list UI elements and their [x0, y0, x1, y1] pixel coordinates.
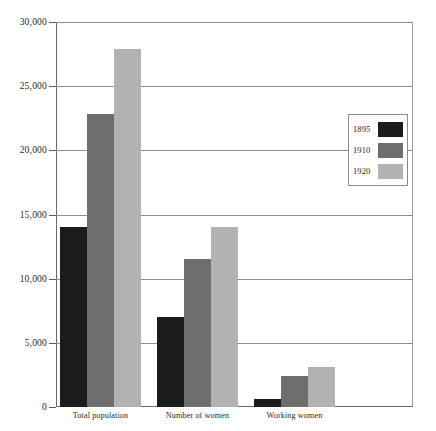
bar-chart: 05,00010,00015,00020,00025,00030,000 Tot… [0, 0, 436, 431]
y-axis-tick-mark [49, 343, 56, 344]
bar [254, 399, 281, 407]
y-axis-tick-label: 10,000 [20, 274, 47, 284]
legend: 189519101920 [348, 114, 408, 186]
x-axis-category-label: Working women [267, 411, 323, 420]
bar [211, 227, 238, 407]
y-axis-tick-label: 15,000 [20, 210, 47, 220]
legend-item-label: 1895 [353, 124, 378, 134]
legend-item-label: 1920 [353, 166, 378, 176]
bar [114, 49, 141, 407]
bar [157, 317, 184, 407]
x-axis-category-label: Number of women [166, 411, 229, 420]
legend-item: 1910 [353, 141, 403, 159]
bar [308, 367, 335, 407]
y-axis-tick-label: 0 [42, 402, 47, 412]
legend-color-swatch [378, 143, 403, 158]
x-axis-category-label: Total population [73, 411, 128, 420]
legend-color-swatch [378, 164, 403, 179]
gridline [56, 22, 413, 23]
y-axis-tick-mark [49, 22, 56, 23]
y-axis-tick-mark [49, 215, 56, 216]
y-axis-tick-mark [49, 150, 56, 151]
bar [281, 376, 308, 407]
y-axis-tick-mark [49, 86, 56, 87]
y-axis-tick-label: 5,000 [25, 338, 47, 348]
y-axis-tick-label: 30,000 [20, 17, 47, 27]
y-axis-tick-mark [49, 407, 56, 408]
gridline [56, 86, 413, 87]
y-axis-tick-label: 20,000 [20, 145, 47, 155]
bar [87, 114, 114, 407]
legend-item-label: 1910 [353, 145, 378, 155]
legend-item: 1920 [353, 162, 403, 180]
legend-item: 1895 [353, 120, 403, 138]
legend-color-swatch [378, 122, 403, 137]
bar [60, 227, 87, 407]
y-axis-tick-label: 25,000 [20, 81, 47, 91]
y-axis-tick-mark [49, 279, 56, 280]
bar [184, 259, 211, 407]
